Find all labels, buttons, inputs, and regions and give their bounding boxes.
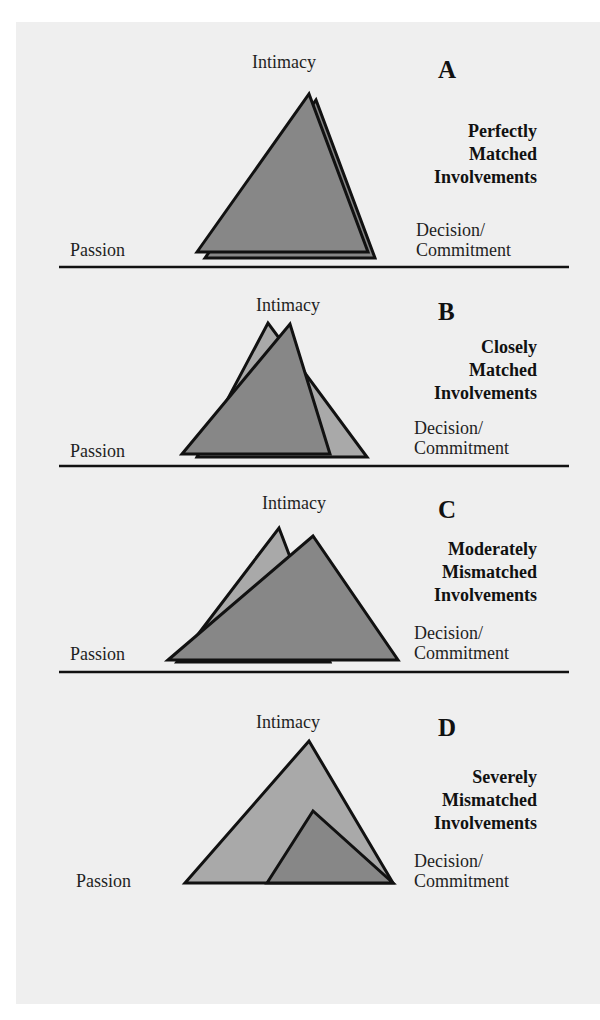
decision-d-line1: Decision/ [414,851,509,871]
title-c-line1: Moderately [434,538,537,561]
label-decision-d: Decision/ Commitment [414,851,509,891]
label-passion-a: Passion [70,240,125,260]
title-b-line2: Matched [434,359,537,382]
title-d-line2: Mismatched [434,789,537,812]
panel-title-d: Severely Mismatched Involvements [434,766,537,835]
label-intimacy-c: Intimacy [262,493,326,513]
label-intimacy-b: Intimacy [256,295,320,315]
decision-a-line1: Decision/ [416,220,511,240]
decision-c-line1: Decision/ [414,623,509,643]
panel-title-b: Closely Matched Involvements [434,336,537,405]
decision-b-line1: Decision/ [414,418,509,438]
title-c-line2: Mismatched [434,561,537,584]
panel-letter-b: B [438,298,455,326]
decision-d-line2: Commitment [414,871,509,891]
title-b-line3: Involvements [434,382,537,405]
label-passion-b: Passion [70,441,125,461]
label-intimacy-a: Intimacy [252,52,316,72]
label-decision-b: Decision/ Commitment [414,418,509,458]
panel-c-triangles [168,528,398,662]
panel-d-triangles [185,741,393,883]
decision-a-line2: Commitment [416,240,511,260]
panel-title-c: Moderately Mismatched Involvements [434,538,537,607]
title-b-line1: Closely [434,336,537,359]
title-d-line1: Severely [434,766,537,789]
panel-letter-d: D [438,714,456,742]
panel-letter-c: C [438,496,456,524]
title-a-line2: Matched [434,143,537,166]
decision-b-line2: Commitment [414,438,509,458]
panel-letter-a: A [438,56,456,84]
label-decision-c: Decision/ Commitment [414,623,509,663]
decision-c-line2: Commitment [414,643,509,663]
title-c-line3: Involvements [434,584,537,607]
title-d-line3: Involvements [434,812,537,835]
label-passion-d: Passion [76,871,131,891]
panel-a-triangles [197,94,375,258]
panel-b-triangles [182,323,367,457]
title-a-line1: Perfectly [434,120,537,143]
label-passion-c: Passion [70,644,125,664]
panel-title-a: Perfectly Matched Involvements [434,120,537,189]
label-intimacy-d: Intimacy [256,712,320,732]
title-a-line3: Involvements [434,166,537,189]
label-decision-a: Decision/ Commitment [416,220,511,260]
